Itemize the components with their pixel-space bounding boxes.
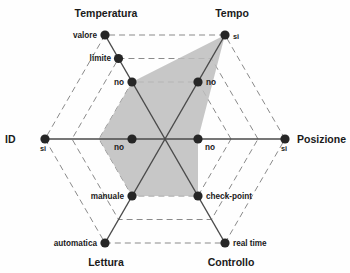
- radar-chart-svg: Temperatura Tempo Posizione Controllo Le…: [0, 0, 350, 273]
- data-point-id[interactable]: [127, 134, 136, 143]
- axis-title-temperatura: Temperatura: [75, 7, 138, 19]
- data-point-temperatura[interactable]: [127, 77, 136, 86]
- vertex-marker-temperatura-limite[interactable]: [114, 54, 123, 63]
- axis-title-tempo: Tempo: [215, 7, 249, 19]
- vertex-marker-controllo-outer[interactable]: [220, 238, 229, 247]
- vertex-marker-posizione-outer[interactable]: [280, 134, 289, 143]
- tick-label-tempo-si: si: [233, 32, 239, 41]
- data-point-posizione[interactable]: [193, 134, 202, 143]
- tick-label-controllo-checkpoint: check-point: [206, 192, 252, 201]
- tick-label-controllo-realtime: real time: [233, 239, 267, 248]
- tick-label-lettura-manuale: manuale: [91, 192, 125, 201]
- data-point-controllo[interactable]: [193, 191, 202, 200]
- tick-label-tempo-no: no: [206, 78, 216, 87]
- vertex-marker-temperatura-outer[interactable]: [100, 30, 109, 39]
- tick-label-posizione-no: no: [205, 143, 215, 152]
- data-point-tempo[interactable]: [193, 77, 202, 86]
- axis-title-controllo: Controllo: [208, 256, 255, 268]
- radar-chart-figure: Temperatura Tempo Posizione Controllo Le…: [0, 0, 350, 273]
- tick-label-id-si: si: [40, 144, 46, 153]
- axis-title-id: ID: [5, 133, 16, 145]
- axis-title-lettura: Lettura: [88, 256, 124, 268]
- vertex-marker-tempo-outer[interactable]: [220, 30, 229, 39]
- tick-label-lettura-automatica: automatica: [54, 239, 98, 248]
- tick-label-temperatura-valore: valore: [73, 31, 98, 40]
- tick-label-posizione-si: si: [281, 144, 287, 153]
- tick-label-temperatura-no: no: [114, 78, 124, 87]
- axis-title-posizione: Posizione: [297, 133, 346, 145]
- tick-label-temperatura-limite: limite: [90, 54, 112, 63]
- vertex-marker-id-outer[interactable]: [40, 134, 49, 143]
- vertex-marker-lettura-outer[interactable]: [100, 238, 109, 247]
- data-point-lettura[interactable]: [127, 191, 136, 200]
- tick-label-id-no: no: [114, 143, 124, 152]
